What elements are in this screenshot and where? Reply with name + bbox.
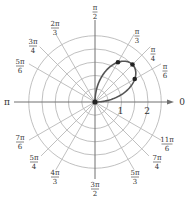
curve-point (116, 60, 121, 65)
angle-label-denominator: 3 (135, 37, 139, 45)
angle-label-denominator: 6 (163, 72, 168, 80)
angle-label-numerator: 3π (28, 38, 37, 46)
angle-label-denominator: 4 (32, 163, 37, 171)
angle-label-denominator: 3 (53, 29, 57, 37)
angle-label-numerator: 3π (90, 181, 99, 189)
angle-label-denominator: 6 (18, 143, 23, 151)
angle-label-denominator: 3 (133, 178, 137, 186)
angle-label-denominator: 4 (151, 55, 156, 63)
angle-label-numerator: π (93, 4, 98, 12)
angle-label: 2π3 (50, 20, 59, 37)
angle-label: 5π6 (15, 58, 24, 75)
angle-label-numerator: 5π (29, 154, 38, 162)
angle-label-denominator: 3 (53, 178, 57, 186)
angle-label: 7π6 (15, 134, 24, 151)
angle-label-numerator: π (151, 46, 156, 54)
angle-label: 11π6 (160, 136, 174, 153)
angle-label: 3π2 (90, 181, 99, 198)
angle-label-numerator: 11π (160, 136, 174, 144)
angle-label-numerator: 4π (50, 169, 59, 177)
arrow-right-icon (167, 100, 174, 105)
angle-label-denominator: 6 (18, 67, 23, 75)
angle-label: π4 (151, 46, 156, 63)
angle-label-numerator: 7π (152, 154, 161, 162)
curve-point (130, 62, 135, 67)
angle-label-numerator: 5π (130, 169, 139, 177)
angle-label-numerator: 7π (15, 134, 24, 142)
radial-tick-label: 1 (118, 106, 124, 116)
angle-label-numerator: π (163, 63, 168, 71)
curve-point (92, 99, 97, 104)
angle-label-denominator: 4 (155, 163, 160, 171)
angle-label-numerator: 5π (15, 58, 24, 66)
angle-label: 3π4 (28, 38, 37, 55)
curve-point (132, 77, 137, 82)
radial-tick-label: 2 (144, 106, 150, 116)
angle-label: 4π3 (50, 169, 59, 186)
angle-label: 5π4 (29, 154, 38, 171)
angle-label: π2 (93, 4, 98, 21)
angle-label: π6 (163, 63, 168, 80)
polar-axis-pi-label: π (4, 97, 10, 107)
polar-graph: π2π3π4π62π33π45π67π65π44π33π25π37π411π6 … (0, 0, 186, 210)
angle-label-denominator: 2 (93, 190, 97, 198)
angle-label-denominator: 2 (93, 13, 97, 21)
angle-label-numerator: 2π (50, 20, 59, 28)
angle-label: 5π3 (130, 169, 139, 186)
angle-label-denominator: 6 (165, 145, 170, 153)
angle-label-numerator: π (135, 28, 140, 36)
angle-label: 7π4 (152, 154, 161, 171)
polar-axis-zero-label: 0 (179, 97, 185, 107)
angle-label-denominator: 4 (31, 47, 36, 55)
angle-label: π3 (135, 28, 140, 45)
